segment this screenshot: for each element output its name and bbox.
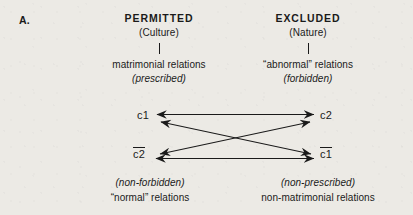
node-c2-label: c2 [320, 109, 332, 121]
node-non-c1: c1 [320, 147, 332, 160]
caption-right-non-matrimonial-relations: non-matrimonial relations [233, 190, 403, 205]
caption-right: (non-prescribed) non-matrimonial relatio… [233, 175, 403, 205]
node-c1: c1 [137, 109, 149, 121]
edge-diagonal-c1-non-c1 [161, 122, 311, 154]
node-c2: c2 [320, 109, 332, 121]
caption-left: (non-forbidden) “normal” relations [65, 175, 235, 205]
node-non-c2-label: c2 [133, 147, 145, 160]
caption-right-non-prescribed: (non-prescribed) [233, 175, 403, 190]
column-title-permitted: PERMITTED [84, 11, 234, 25]
vertical-connector-icon [308, 43, 309, 54]
column-line2-forbidden: (forbidden) [233, 72, 383, 86]
column-subtitle-culture: (Culture) [84, 25, 234, 40]
caption-left-normal-relations: “normal” relations [65, 190, 235, 205]
column-line1-matrimonial-relations: matrimonial relations [84, 57, 234, 72]
panel-label: A. [19, 14, 30, 26]
column-subtitle-nature: (Nature) [233, 25, 383, 40]
column-excluded: EXCLUDED (Nature) “abnormal” relations (… [233, 11, 383, 86]
caption-left-non-forbidden: (non-forbidden) [65, 175, 235, 190]
column-title-excluded: EXCLUDED [233, 11, 383, 25]
column-line2-prescribed: (prescribed) [84, 72, 234, 86]
vertical-connector-icon [159, 43, 160, 54]
column-permitted: PERMITTED (Culture) matrimonial relation… [84, 11, 234, 86]
column-line1-abnormal-relations: “abnormal” relations [233, 57, 383, 72]
node-non-c2: c2 [133, 147, 145, 160]
edge-diagonal-c2-non-c2 [160, 122, 310, 154]
node-non-c1-label: c1 [320, 147, 332, 160]
node-c1-label: c1 [137, 109, 149, 121]
